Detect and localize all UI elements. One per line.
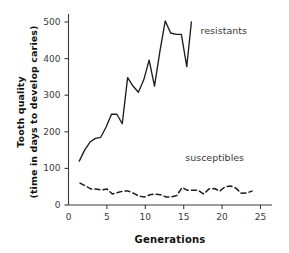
x-axis-ticks: 0510152025 <box>66 205 267 222</box>
y-tick-label: 200 <box>43 127 60 137</box>
y-axis-title-line2: (time in days to develop caries) <box>28 26 39 199</box>
series-label-resistants: resistants <box>201 25 247 36</box>
y-tick-label: 400 <box>43 54 60 64</box>
series-label-susceptibles: susceptibles <box>185 152 244 163</box>
x-tick-label: 10 <box>140 212 152 222</box>
data-series-group <box>79 21 252 197</box>
y-tick-label: 500 <box>43 17 60 27</box>
line-chart-svg: 0100200300400500 0510152025 resistants s… <box>0 0 289 253</box>
x-axis-title: Generations <box>135 234 206 245</box>
y-axis-ticks: 0100200300400500 <box>43 17 68 210</box>
x-tick-label: 15 <box>178 212 189 222</box>
x-tick-label: 25 <box>255 212 266 222</box>
y-tick-label: 100 <box>43 163 60 173</box>
chart-figure: 0100200300400500 0510152025 resistants s… <box>0 0 289 253</box>
series-line-resistants <box>79 21 191 161</box>
x-tick-label: 0 <box>66 212 72 222</box>
series-line-susceptibles <box>80 183 252 197</box>
y-axis-title-line1: Tooth quality <box>15 76 26 148</box>
y-tick-label: 0 <box>55 200 61 210</box>
series-annotations: resistants susceptibles <box>185 25 247 163</box>
x-tick-label: 20 <box>216 212 228 222</box>
x-tick-label: 5 <box>104 212 110 222</box>
y-tick-label: 300 <box>43 90 60 100</box>
